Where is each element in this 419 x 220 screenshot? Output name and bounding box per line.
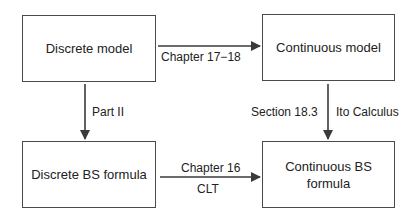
edge-label-section-18-3: Section 18.3 [251, 105, 318, 119]
node-continuous-model: Continuous model [262, 14, 395, 81]
node-discrete-model: Discrete model [22, 15, 156, 82]
edge-label-chapter-16: Chapter 16 [181, 161, 240, 175]
edge-label-clt: CLT [197, 182, 219, 196]
node-label: Discrete model [46, 40, 133, 57]
edge-label-part-ii: Part II [92, 105, 124, 119]
node-discrete-bs-formula: Discrete BS formula [22, 141, 156, 208]
node-label: Continuous BS formula [285, 158, 372, 192]
node-label: Continuous model [276, 39, 381, 56]
node-continuous-bs-formula: Continuous BS formula [262, 141, 395, 208]
node-label: Discrete BS formula [31, 166, 147, 183]
edge-label-chapter-17-18: Chapter 17−18 [161, 50, 241, 64]
edge-label-ito-calculus: Ito Calculus [336, 105, 399, 119]
